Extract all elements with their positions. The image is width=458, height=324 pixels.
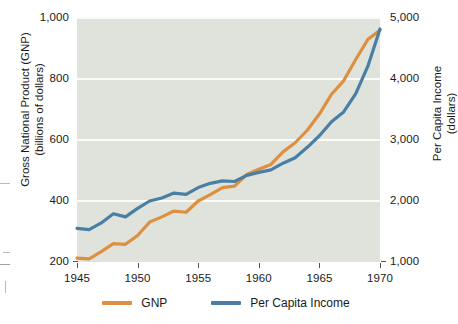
page-edge-artifact	[5, 281, 6, 293]
y-axis-left-title: Gross National Product (GNP) (billions o…	[19, 15, 46, 205]
x-tick-label: 1945	[47, 272, 107, 284]
data-series-lines	[77, 18, 380, 262]
page-edge-artifact	[3, 252, 10, 253]
tick-mark	[319, 263, 320, 268]
y-tick-label-right: 1,000	[390, 255, 450, 267]
x-tick-label: 1965	[289, 272, 349, 284]
tick-mark	[259, 263, 260, 268]
tick-mark	[381, 261, 386, 262]
series-line-per-capita-income	[77, 29, 380, 230]
page-edge-artifact	[0, 183, 10, 184]
x-tick-label: 1960	[229, 272, 289, 284]
tick-mark	[380, 263, 381, 268]
y-axis-right-title: Per Capita Income (dollars)	[431, 19, 458, 209]
legend-label: GNP	[141, 296, 167, 310]
legend-swatch	[211, 301, 241, 305]
tick-mark	[73, 261, 78, 262]
tick-mark	[198, 263, 199, 268]
x-tick-label: 1950	[108, 272, 168, 284]
plot-area	[77, 18, 380, 262]
x-tick-label: 1955	[168, 272, 228, 284]
chart-legend: GNPPer Capita Income	[0, 296, 452, 310]
series-line-gnp	[77, 30, 380, 259]
legend-item[interactable]: GNP	[102, 296, 167, 310]
tick-mark	[77, 263, 78, 268]
y-tick-label-left: 200	[9, 255, 69, 267]
legend-label: Per Capita Income	[250, 296, 349, 310]
legend-item[interactable]: Per Capita Income	[211, 296, 349, 310]
tick-mark	[138, 263, 139, 268]
legend-swatch	[102, 301, 132, 305]
x-tick-label: 1970	[350, 272, 410, 284]
